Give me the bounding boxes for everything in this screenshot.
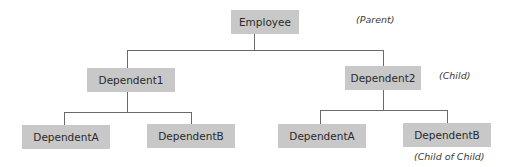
- connector-dependent2-horizontal: [320, 110, 448, 111]
- connector-root-stem: [254, 34, 255, 50]
- node-right-dependentb: DependentB: [403, 123, 491, 147]
- node-left-dependentb: DependentB: [147, 124, 235, 148]
- annotation-child: (Child): [439, 70, 470, 81]
- connector-to-dependent2: [383, 50, 384, 66]
- connector-root-horizontal: [127, 50, 384, 51]
- node-right-dependenta: DependentA: [278, 124, 366, 148]
- annotation-parent: (Parent): [356, 14, 394, 25]
- connector-dependent1-stem: [127, 92, 128, 112]
- connector-to-left-dependenta: [64, 112, 65, 125]
- node-left-dependenta: DependentA: [22, 125, 110, 149]
- connector-to-dependent1: [127, 50, 128, 68]
- node-employee: Employee: [231, 10, 299, 34]
- node-dependent2: Dependent2: [345, 66, 421, 90]
- node-dependent1: Dependent1: [87, 68, 175, 92]
- connector-dependent2-stem: [383, 90, 384, 110]
- annotation-child-of-child: (Child of Child): [414, 151, 485, 162]
- connector-to-right-dependenta: [320, 110, 321, 124]
- connector-to-right-dependentb: [447, 110, 448, 123]
- connector-dependent1-horizontal: [64, 112, 192, 113]
